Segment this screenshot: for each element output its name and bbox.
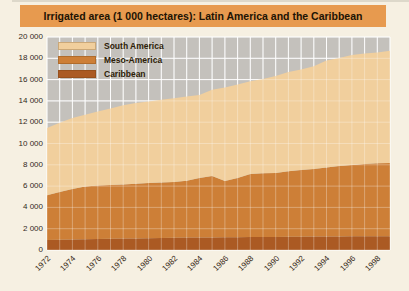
legend-swatch-south-america <box>58 42 96 50</box>
legend-swatch-meso-america <box>58 56 96 64</box>
y-axis-tick-label: 12 000 <box>3 117 43 127</box>
legend-item-south-america: South America <box>58 39 164 53</box>
y-axis-tick-label: 14 000 <box>3 96 43 106</box>
legend-item-caribbean: Caribbean <box>58 67 164 81</box>
chart-legend: South America Meso-America Caribbean <box>58 39 164 81</box>
chart-page: Irrigated area (1 000 hectares): Latin A… <box>0 0 409 291</box>
legend-swatch-caribbean <box>58 70 96 78</box>
y-axis-tick-label: 6 000 <box>3 181 43 191</box>
y-axis-tick-label: 18 000 <box>3 53 43 63</box>
legend-item-meso-america: Meso-America <box>58 53 164 67</box>
legend-label-south-america: South America <box>104 41 164 51</box>
y-axis-tick-label: 2 000 <box>3 224 43 234</box>
y-axis-tick-label: 0 <box>3 245 43 255</box>
legend-label-meso-america: Meso-America <box>104 55 162 65</box>
y-axis-tick-label: 16 000 <box>3 75 43 85</box>
y-axis-tick-label: 4 000 <box>3 202 43 212</box>
y-axis-tick-label: 8 000 <box>3 160 43 170</box>
y-axis-tick-label: 10 000 <box>3 139 43 149</box>
y-axis-tick-label: 20 000 <box>3 32 43 42</box>
legend-label-caribbean: Caribbean <box>104 69 146 79</box>
